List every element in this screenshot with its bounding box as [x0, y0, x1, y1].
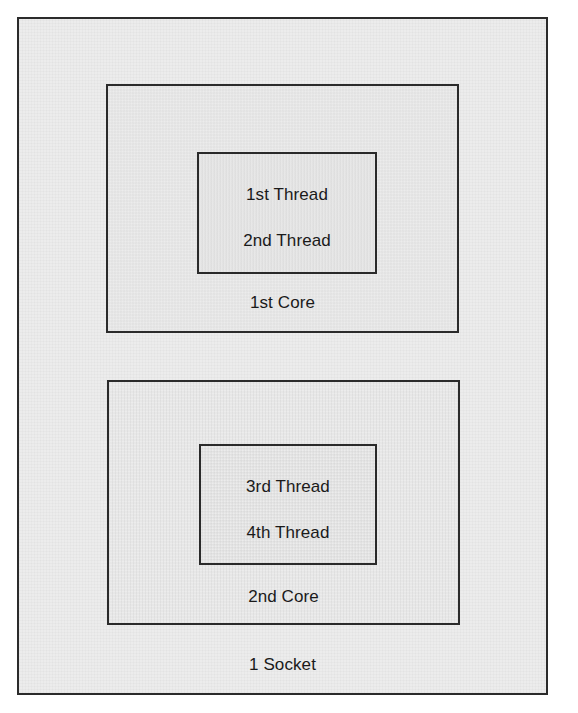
core-box-1: 1st Thread 2nd Thread 1st Core: [106, 84, 459, 333]
thread-group-box-2: 3rd Thread 4th Thread: [199, 444, 377, 565]
thread-label-3: 3rd Thread: [201, 478, 375, 495]
core-box-2: 3rd Thread 4th Thread 2nd Core: [107, 380, 460, 625]
core-label-1: 1st Core: [108, 294, 457, 311]
cpu-topology-diagram: 1st Thread 2nd Thread 1st Core 3rd Threa…: [0, 0, 578, 713]
core-label-2: 2nd Core: [109, 588, 458, 605]
thread-label-2: 2nd Thread: [199, 232, 375, 249]
socket-box: 1st Thread 2nd Thread 1st Core 3rd Threa…: [17, 17, 548, 695]
thread-label-4: 4th Thread: [201, 524, 375, 541]
socket-label: 1 Socket: [19, 656, 546, 673]
thread-label-1: 1st Thread: [199, 186, 375, 203]
thread-group-box-1: 1st Thread 2nd Thread: [197, 152, 377, 274]
